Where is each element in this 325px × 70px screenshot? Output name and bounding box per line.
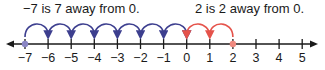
tick-label: −5 <box>64 51 78 65</box>
tick-label: 4 <box>276 51 283 65</box>
jump-arrow-icon <box>71 24 94 37</box>
point-2 <box>230 41 236 47</box>
tick-label: −2 <box>133 51 147 65</box>
tick-label: 0 <box>183 51 190 65</box>
jump-arrow-icon <box>210 24 233 37</box>
jump-arrow-icon <box>141 24 164 37</box>
tick-label: 2 <box>229 51 236 65</box>
tick-marks: −7−6−5−4−3−2−1012345 <box>18 39 306 65</box>
tick-label: −1 <box>156 51 170 65</box>
distance-jumps <box>25 24 233 37</box>
jump-arrow-icon <box>164 24 187 37</box>
tick-label: 5 <box>299 51 306 65</box>
tick-label: −4 <box>87 51 101 65</box>
axis <box>6 41 318 48</box>
tick-label: −6 <box>41 51 55 65</box>
tick-label: −7 <box>18 51 32 65</box>
axis-right-arrow-icon <box>310 41 318 48</box>
point--7 <box>22 41 28 47</box>
jump-arrow-icon <box>187 24 210 37</box>
tick-label: 1 <box>206 51 213 65</box>
jump-arrow-icon <box>117 24 140 37</box>
tick-label: −3 <box>110 51 124 65</box>
jump-arrow-icon <box>94 24 117 37</box>
axis-left-arrow-icon <box>6 41 14 48</box>
jump-arrow-icon <box>48 24 71 37</box>
number-line-diagram: −7−6−5−4−3−2−1012345 <box>0 0 325 70</box>
tick-label: 3 <box>253 51 260 65</box>
jump-arrow-icon <box>25 24 48 37</box>
